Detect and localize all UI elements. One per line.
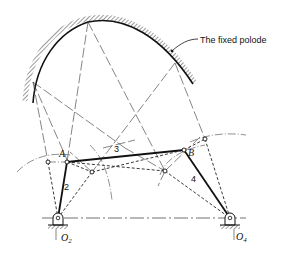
polode-annotation: The fixed polode xyxy=(171,35,267,52)
joint-left xyxy=(46,160,50,164)
label-link-4: 4 xyxy=(191,174,196,184)
polode-label: The fixed polode xyxy=(200,35,267,45)
fourbar-polode-diagram: The fixed polode xyxy=(0,0,282,253)
link-4 xyxy=(184,150,230,218)
label-link-2: 2 xyxy=(64,182,69,192)
label-link-3: 3 xyxy=(114,144,119,154)
label-o2: O2 xyxy=(61,232,72,245)
joint-inner-left xyxy=(90,170,94,174)
ground-pivot-o2 xyxy=(48,213,68,229)
link-3 xyxy=(67,150,184,162)
label-A: A xyxy=(58,148,66,159)
solid-links xyxy=(58,150,230,218)
construction-lines xyxy=(33,22,205,186)
joint-inner-right xyxy=(163,169,167,173)
ground-pivot-o4 xyxy=(220,213,240,229)
label-B: B xyxy=(188,147,194,158)
joint-right xyxy=(203,137,207,141)
joint-A xyxy=(65,160,69,164)
joint-B xyxy=(182,148,186,152)
label-o4: O4 xyxy=(236,231,247,244)
fixed-polode xyxy=(25,17,195,103)
